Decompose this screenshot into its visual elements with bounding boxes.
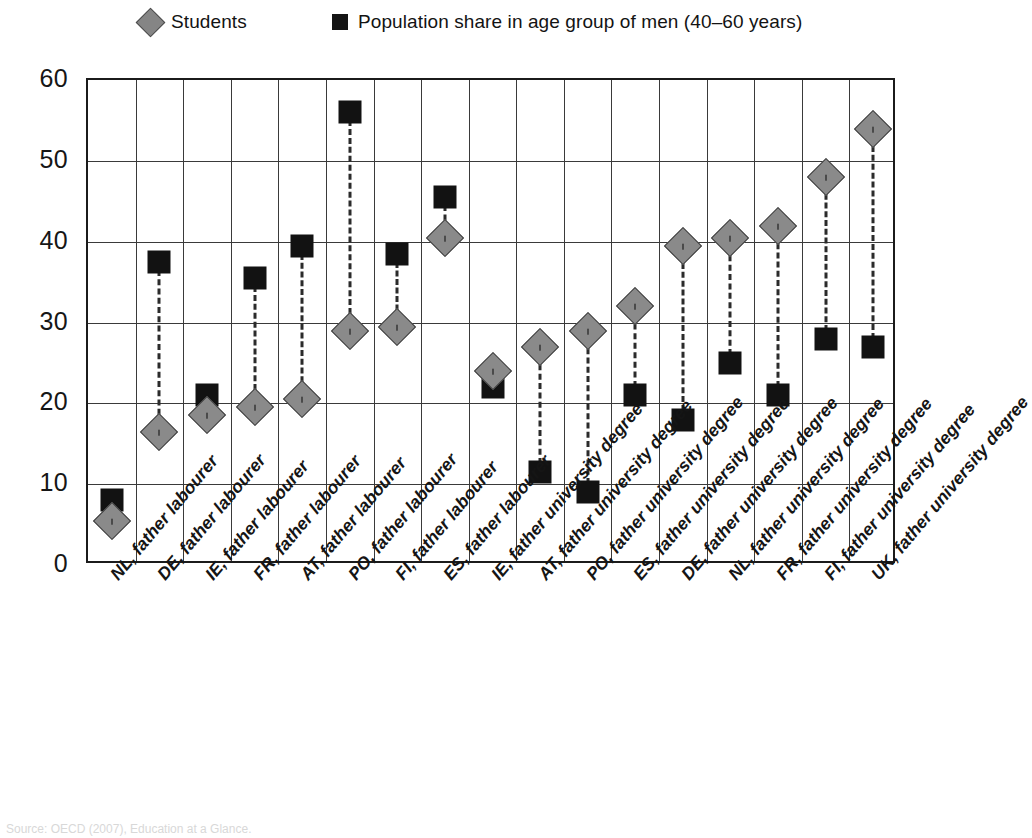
connector-line xyxy=(824,185,827,331)
connector-line xyxy=(253,286,256,399)
data-point-population xyxy=(719,351,742,374)
y-axis-tick: 10 xyxy=(39,468,68,497)
y-axis-tick: 50 xyxy=(39,144,68,173)
data-point-students xyxy=(622,293,649,320)
data-point-students xyxy=(336,317,363,344)
plot-area xyxy=(86,78,895,563)
data-point-students xyxy=(146,418,173,445)
connector-line xyxy=(301,254,304,392)
y-axis-tick: 40 xyxy=(39,225,68,254)
legend-item-population: Population share in age group of men (40… xyxy=(330,11,802,33)
connector-line xyxy=(158,270,161,424)
data-point-students xyxy=(431,224,458,251)
x-axis-labels: NL, father labourerDE, father labourerIE… xyxy=(0,565,921,805)
data-point-population xyxy=(291,234,314,257)
data-point-students xyxy=(812,164,839,191)
data-point-students xyxy=(479,358,506,385)
data-point-students xyxy=(669,232,696,259)
data-point-students xyxy=(384,313,411,340)
legend-item-students: Students xyxy=(138,11,247,33)
connector-line xyxy=(681,254,684,412)
data-point-students xyxy=(241,394,268,421)
connector-line xyxy=(872,137,875,339)
connector-line xyxy=(729,246,732,355)
data-point-students xyxy=(860,115,887,142)
data-point-population xyxy=(243,267,266,290)
data-point-population xyxy=(814,327,837,350)
legend-label-population: Population share in age group of men (40… xyxy=(358,11,802,33)
data-point-population xyxy=(338,101,361,124)
data-point-population xyxy=(386,242,409,265)
data-point-students xyxy=(527,333,554,360)
data-point-students xyxy=(289,386,316,413)
legend-label-students: Students xyxy=(171,11,247,33)
y-axis-tick: 60 xyxy=(39,64,68,93)
data-point-population xyxy=(433,186,456,209)
data-point-students xyxy=(193,402,220,429)
data-point-students xyxy=(98,507,125,534)
data-point-students xyxy=(574,317,601,344)
square-marker-icon xyxy=(330,14,349,30)
data-point-students xyxy=(765,212,792,239)
diamond-marker-icon xyxy=(138,12,162,33)
source-note: Source: OECD (2007), Education at a Glan… xyxy=(6,822,251,836)
connector-line xyxy=(539,355,542,464)
connector-line xyxy=(777,234,780,388)
y-axis-labels: 6050403020100 xyxy=(0,78,78,563)
chart-legend: Students Population share in age group o… xyxy=(0,8,921,46)
data-point-population xyxy=(148,250,171,273)
y-axis-tick: 20 xyxy=(39,387,68,416)
data-point-population xyxy=(862,335,885,358)
y-axis-tick: 30 xyxy=(39,306,68,335)
data-point-students xyxy=(717,224,744,251)
connector-line xyxy=(348,120,351,322)
